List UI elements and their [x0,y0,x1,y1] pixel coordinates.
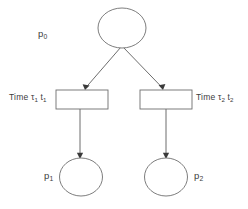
place-label-p2-subscript: 2 [199,175,203,182]
arc-p0-to-t1 [83,47,121,90]
transition-layer [56,90,192,109]
transition-label-t2: Time τ2 t2 [196,93,234,102]
transition-label-t2-tau: τ [218,92,222,102]
arc-line [123,47,162,87]
place-p2[interactable] [145,158,188,196]
transition-t1[interactable] [56,90,108,109]
place-label-p1: p1 [44,171,53,181]
transition-label-t2-name-subscript: 2 [230,96,233,103]
arc-line [86,47,121,87]
place-label-p0-subscript: 0 [43,33,47,40]
place-label-p2: p2 [194,171,203,181]
place-p0[interactable] [98,8,146,48]
place-label-p0: p0 [38,29,47,39]
transition-t2[interactable] [140,90,192,109]
place-p1[interactable] [60,158,103,196]
transition-label-t1-prefix: Time [9,92,28,102]
transition-label-t1: Time τ1 t1 [9,93,47,102]
transition-label-t1-tau-subscript: 1 [35,96,38,103]
arc-t1-to-p1 [77,109,83,159]
transition-label-t1-name-subscript: 1 [43,96,46,103]
petri-net-diagram: p0 Time τ1 t1 Time τ2 t2 p1 p2 [0,0,248,209]
transition-label-t1-tau: τ [31,92,35,102]
arc-t2-to-p2 [163,109,169,159]
transition-label-t2-prefix: Time [196,92,215,102]
transition-label-t2-tau-subscript: 2 [222,96,225,103]
arc-p0-to-t2 [123,47,165,90]
place-label-p1-subscript: 1 [49,175,53,182]
